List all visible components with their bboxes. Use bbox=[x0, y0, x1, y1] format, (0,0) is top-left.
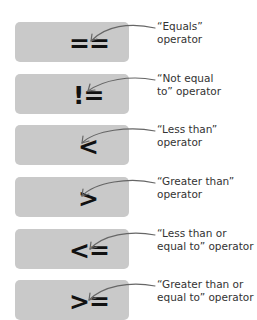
arrow-icon bbox=[90, 233, 155, 249]
arrow-icon bbox=[82, 129, 155, 143]
arrow-icon bbox=[89, 284, 155, 300]
arrow-icon bbox=[91, 25, 155, 41]
arrow-icon bbox=[82, 181, 155, 196]
callout-arrows bbox=[0, 0, 257, 320]
arrow-icon bbox=[88, 78, 155, 91]
